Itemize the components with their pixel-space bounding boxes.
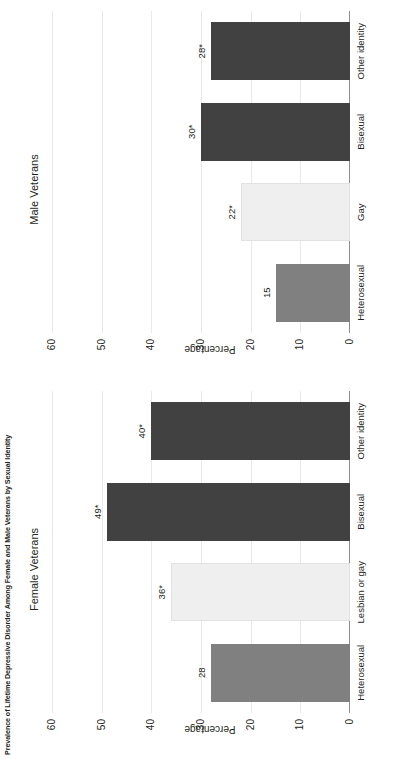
panel-female-veterans: Female Veterans Percentage 6050403020100…: [22, 380, 397, 759]
x-axis-category-label: Other identity: [355, 23, 366, 80]
x-axis-category-label: Heterosexual: [355, 645, 366, 701]
y-axis-label-male: Percentage: [184, 344, 235, 355]
bar-value-label: 49*: [92, 505, 103, 519]
bar: [276, 264, 351, 322]
y-axis-tick-label: 20: [246, 719, 256, 730]
y-axis-tick-label: 30: [196, 719, 206, 730]
y-axis-tick-label: 40: [146, 719, 156, 730]
bar-item: 36*Lesbian or gay: [52, 563, 350, 621]
bar: [241, 183, 350, 241]
y-axis-tick-label: 30: [196, 339, 206, 350]
y-axis-tick-label: 0: [345, 339, 355, 345]
bar: [151, 402, 350, 460]
plot-area-male: 6050403020100 15Heterosexual22*Gay30*Bis…: [52, 11, 350, 333]
y-axis-tick-label: 40: [146, 339, 156, 350]
panels-container: Female Veterans Percentage 6050403020100…: [22, 0, 397, 759]
y-axis-label-female: Percentage: [184, 724, 235, 735]
bar: [211, 22, 350, 80]
x-axis-category-label: Bisexual: [355, 114, 366, 150]
x-axis-category-label: Bisexual: [355, 494, 366, 530]
panel-title-female: Female Veterans: [28, 380, 40, 759]
x-axis-category-label: Other identity: [355, 403, 366, 460]
rotated-figure-container: Prevalence of Lifetime Depressive Disord…: [0, 0, 397, 759]
bar-item: 22*Gay: [52, 183, 350, 241]
y-axis-tick-label: 60: [47, 339, 57, 350]
x-axis-category-label: Lesbian or gay: [355, 561, 366, 623]
x-axis-category-label: Gay: [355, 204, 366, 221]
bar-value-label: 30*: [186, 125, 197, 139]
bar: [171, 563, 350, 621]
panel-male-veterans: Male Veterans Percentage 6050403020100 1…: [22, 0, 397, 379]
y-axis-tick-label: 50: [97, 719, 107, 730]
bar: [211, 644, 350, 702]
x-axis-category-label: Heterosexual: [355, 265, 366, 321]
y-axis-tick-label: 20: [246, 339, 256, 350]
bar: [201, 103, 350, 161]
y-axis-tick-label: 50: [97, 339, 107, 350]
bar-item: 30*Bisexual: [52, 103, 350, 161]
y-axis-tick-label: 10: [295, 339, 305, 350]
bar-value-label: 15: [261, 287, 272, 298]
bar-value-label: 40*: [136, 424, 147, 438]
figure-title: Prevalence of Lifetime Depressive Disord…: [3, 435, 12, 755]
figure: Prevalence of Lifetime Depressive Disord…: [0, 0, 397, 759]
bar: [107, 483, 350, 541]
bar-item: 28*Other identity: [52, 22, 350, 80]
panel-title-male: Male Veterans: [28, 0, 40, 379]
bar-group-female: 28Heterosexual36*Lesbian or gay49*Bisexu…: [52, 391, 350, 713]
y-axis-tick-label: 10: [295, 719, 305, 730]
plot-area-female: 6050403020100 28Heterosexual36*Lesbian o…: [52, 391, 350, 713]
bar-value-label: 28: [196, 667, 207, 678]
bar-value-label: 28*: [196, 44, 207, 58]
bar-item: 49*Bisexual: [52, 483, 350, 541]
bar-group-male: 15Heterosexual22*Gay30*Bisexual28*Other …: [52, 11, 350, 333]
bar-item: 15Heterosexual: [52, 264, 350, 322]
y-axis-tick-label: 0: [345, 719, 355, 725]
bar-item: 28Heterosexual: [52, 644, 350, 702]
bar-value-label: 36*: [156, 585, 167, 599]
bar-value-label: 22*: [226, 205, 237, 219]
y-axis-tick-label: 60: [47, 719, 57, 730]
bar-item: 40*Other identity: [52, 402, 350, 460]
